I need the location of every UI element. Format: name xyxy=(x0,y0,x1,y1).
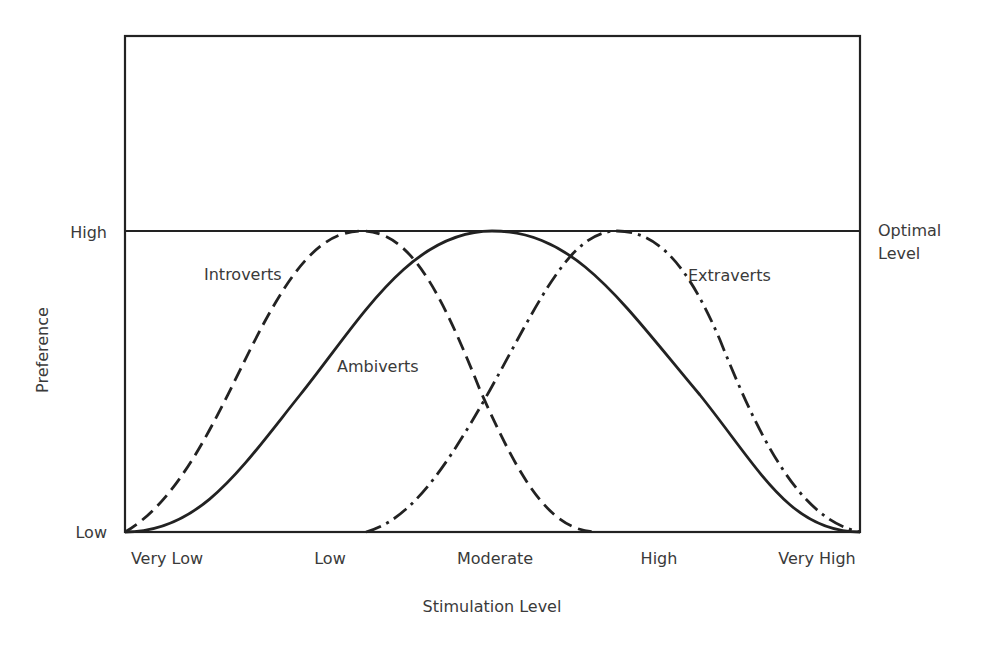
x-tick-very-high: Very High xyxy=(778,549,855,568)
introverts-curve xyxy=(125,231,598,532)
x-tick-low: Low xyxy=(314,549,346,568)
x-tick-moderate: Moderate xyxy=(457,549,533,568)
y-tick-low: Low xyxy=(75,523,107,542)
y-tick-high: High xyxy=(70,223,107,242)
chart: High Low Preference Very Low Low Moderat… xyxy=(0,0,983,648)
y-axis-title: Preference xyxy=(33,307,52,393)
x-tick-very-low: Very Low xyxy=(131,549,203,568)
introverts-label: Introverts xyxy=(204,265,282,284)
optimal-label-line1: Optimal xyxy=(878,221,941,240)
optimal-label-line2: Level xyxy=(878,244,920,263)
extraverts-curve xyxy=(366,231,860,532)
ambiverts-label: Ambiverts xyxy=(337,357,419,376)
x-tick-high: High xyxy=(641,549,678,568)
x-axis-title: Stimulation Level xyxy=(423,597,562,616)
extraverts-label: Extraverts xyxy=(688,266,771,285)
